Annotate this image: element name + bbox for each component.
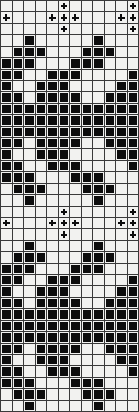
chart-cell-filled[interactable] — [13, 115, 24, 125]
chart-cell-filled[interactable] — [36, 184, 47, 194]
chart-cell-empty[interactable] — [59, 35, 70, 45]
chart-cell-empty[interactable] — [105, 195, 116, 205]
chart-cell-filled[interactable] — [70, 115, 81, 125]
chart-cell-empty[interactable] — [93, 207, 104, 217]
chart-cell-filled[interactable] — [24, 389, 35, 399]
chart-cell-empty[interactable] — [128, 172, 139, 182]
chart-cell-empty[interactable] — [1, 241, 12, 251]
chart-cell-empty[interactable] — [82, 401, 93, 411]
chart-cell-filled[interactable] — [13, 127, 24, 137]
chart-cell-filled[interactable] — [1, 92, 12, 102]
chart-cell-filled[interactable] — [70, 332, 81, 342]
chart-cell-empty[interactable] — [116, 24, 127, 34]
chart-cell-empty[interactable] — [70, 401, 81, 411]
chart-cell-filled[interactable] — [70, 70, 81, 80]
chart-cell-empty[interactable] — [116, 252, 127, 262]
chart-cell-empty[interactable] — [116, 366, 127, 376]
chart-cell-filled[interactable] — [70, 161, 81, 171]
chart-cell-empty[interactable] — [59, 195, 70, 205]
chart-cell-filled[interactable] — [105, 104, 116, 114]
chart-cell-empty[interactable] — [128, 58, 139, 68]
chart-cell-filled[interactable] — [1, 275, 12, 285]
chart-cell-filled[interactable] — [24, 47, 35, 57]
chart-cell-empty[interactable] — [128, 389, 139, 399]
chart-cell-filled[interactable] — [59, 92, 70, 102]
chart-cell-empty[interactable] — [82, 92, 93, 102]
chart-cell-empty[interactable] — [116, 47, 127, 57]
chart-cell-filled[interactable] — [47, 138, 58, 148]
chart-cell-filled[interactable] — [24, 195, 35, 205]
chart-cell-plus[interactable] — [1, 12, 12, 22]
chart-cell-empty[interactable] — [82, 298, 93, 308]
chart-cell-filled[interactable] — [93, 184, 104, 194]
chart-cell-empty[interactable] — [105, 378, 116, 388]
chart-cell-empty[interactable] — [105, 264, 116, 274]
chart-cell-empty[interactable] — [116, 161, 127, 171]
chart-cell-empty[interactable] — [70, 241, 81, 251]
chart-cell-filled[interactable] — [47, 127, 58, 137]
chart-cell-empty[interactable] — [59, 241, 70, 251]
chart-cell-filled[interactable] — [1, 172, 12, 182]
chart-cell-empty[interactable] — [116, 229, 127, 239]
chart-cell-filled[interactable] — [59, 81, 70, 91]
chart-cell-empty[interactable] — [82, 286, 93, 296]
chart-cell-plus[interactable] — [128, 12, 139, 22]
chart-cell-empty[interactable] — [59, 264, 70, 274]
chart-cell-empty[interactable] — [36, 229, 47, 239]
chart-cell-plus[interactable] — [116, 12, 127, 22]
chart-cell-empty[interactable] — [24, 149, 35, 159]
chart-cell-empty[interactable] — [105, 35, 116, 45]
chart-cell-empty[interactable] — [13, 218, 24, 228]
chart-cell-empty[interactable] — [93, 138, 104, 148]
chart-cell-filled[interactable] — [13, 389, 24, 399]
chart-cell-filled[interactable] — [47, 161, 58, 171]
chart-cell-empty[interactable] — [24, 286, 35, 296]
chart-cell-empty[interactable] — [93, 81, 104, 91]
chart-cell-empty[interactable] — [105, 24, 116, 34]
chart-cell-empty[interactable] — [70, 35, 81, 45]
chart-cell-empty[interactable] — [116, 172, 127, 182]
chart-cell-filled[interactable] — [116, 332, 127, 342]
chart-cell-empty[interactable] — [24, 229, 35, 239]
chart-cell-empty[interactable] — [82, 138, 93, 148]
chart-cell-filled[interactable] — [47, 355, 58, 365]
chart-cell-empty[interactable] — [47, 229, 58, 239]
chart-cell-filled[interactable] — [13, 104, 24, 114]
chart-cell-filled[interactable] — [36, 309, 47, 319]
chart-cell-empty[interactable] — [24, 1, 35, 11]
chart-cell-empty[interactable] — [47, 195, 58, 205]
chart-cell-filled[interactable] — [70, 275, 81, 285]
chart-cell-filled[interactable] — [116, 298, 127, 308]
chart-cell-empty[interactable] — [82, 355, 93, 365]
chart-cell-filled[interactable] — [59, 138, 70, 148]
chart-cell-empty[interactable] — [128, 47, 139, 57]
chart-cell-filled[interactable] — [47, 81, 58, 91]
chart-cell-empty[interactable] — [24, 275, 35, 285]
chart-cell-empty[interactable] — [36, 366, 47, 376]
chart-cell-empty[interactable] — [24, 366, 35, 376]
chart-cell-filled[interactable] — [13, 366, 24, 376]
chart-cell-empty[interactable] — [93, 12, 104, 22]
chart-cell-empty[interactable] — [82, 344, 93, 354]
chart-cell-filled[interactable] — [93, 252, 104, 262]
chart-cell-empty[interactable] — [13, 24, 24, 34]
chart-cell-filled[interactable] — [82, 264, 93, 274]
chart-cell-empty[interactable] — [1, 35, 12, 45]
chart-cell-empty[interactable] — [116, 70, 127, 80]
chart-cell-filled[interactable] — [47, 92, 58, 102]
chart-cell-empty[interactable] — [1, 1, 12, 11]
chart-cell-filled[interactable] — [82, 172, 93, 182]
chart-cell-plus[interactable] — [47, 218, 58, 228]
chart-cell-empty[interactable] — [116, 264, 127, 274]
chart-cell-filled[interactable] — [93, 309, 104, 319]
chart-cell-empty[interactable] — [13, 229, 24, 239]
chart-cell-filled[interactable] — [1, 264, 12, 274]
chart-cell-filled[interactable] — [70, 172, 81, 182]
chart-cell-empty[interactable] — [93, 298, 104, 308]
chart-cell-empty[interactable] — [93, 24, 104, 34]
chart-cell-filled[interactable] — [1, 81, 12, 91]
chart-cell-filled[interactable] — [36, 286, 47, 296]
chart-cell-filled[interactable] — [1, 149, 12, 159]
chart-cell-empty[interactable] — [93, 218, 104, 228]
chart-cell-empty[interactable] — [36, 275, 47, 285]
